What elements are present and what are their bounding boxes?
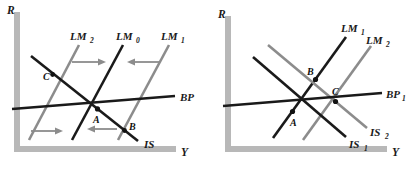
right-label-is2-base: IS <box>369 126 380 138</box>
left-arrow-shift-left-lower <box>87 126 117 133</box>
left-point-b-dot <box>122 128 127 133</box>
right-label-lm2-sub: 2 <box>385 40 390 49</box>
left-arrow-shift-left-upper <box>127 59 160 66</box>
left-arrow-shift-right-upper <box>72 59 106 66</box>
left-point-label-b: B <box>128 121 136 132</box>
left-label-bp: BP <box>179 91 194 103</box>
left-label-lm0-base: LM <box>115 30 134 42</box>
left-curve-lm1 <box>118 45 169 140</box>
left-label-lm2-base: LM <box>69 30 88 42</box>
right-label-is2: IS 2 <box>369 126 389 141</box>
right-label-lm1-base: LM <box>340 22 359 34</box>
left-y-axis-label: R <box>6 4 15 16</box>
right-label-bp1: BP 1 <box>385 88 406 103</box>
left-label-is-base: IS <box>143 138 154 150</box>
right-x-axis-label: Y <box>392 146 400 158</box>
left-curve-is <box>31 56 138 141</box>
figure-root: R Y LM 2 LM 0 LM 1 BP IS C A <box>0 0 410 186</box>
right-point-a-dot <box>290 109 295 114</box>
left-label-bp-base: BP <box>179 91 194 103</box>
right-x-axis <box>225 146 387 152</box>
right-label-is1-base: IS <box>348 138 359 150</box>
left-label-lm2-sub: 2 <box>89 36 94 45</box>
left-point-label-c: C <box>43 71 50 82</box>
left-label-lm1-sub: 1 <box>181 36 185 45</box>
right-label-bp1-base: BP <box>385 88 400 100</box>
right-point-b-dot <box>313 77 318 82</box>
right-y-axis <box>225 16 231 152</box>
right-label-is1-sub: 1 <box>364 144 368 153</box>
left-label-lm1: LM 1 <box>160 30 185 45</box>
right-point-label-b: B <box>306 66 314 77</box>
left-point-label-a: A <box>92 114 100 125</box>
left-label-lm0-sub: 0 <box>136 36 140 45</box>
right-point-label-a: A <box>289 117 297 128</box>
left-point-a-dot <box>95 106 100 111</box>
left-point-c-dot <box>50 72 55 77</box>
left-label-lm2: LM 2 <box>69 30 94 45</box>
right-label-lm2: LM 2 <box>365 34 390 49</box>
panel-right: R Y LM 1 LM 2 BP 1 IS 2 IS 1 <box>205 0 410 186</box>
right-y-axis-label: R <box>217 8 226 20</box>
panel-left: R Y LM 2 LM 0 LM 1 BP IS C A <box>0 0 205 186</box>
right-curve-bp1 <box>223 93 382 106</box>
right-label-bp1-sub: 1 <box>402 94 406 103</box>
left-label-lm1-base: LM <box>160 30 179 42</box>
left-label-lm0: LM 0 <box>115 30 140 45</box>
right-point-label-c: C <box>332 86 339 97</box>
right-point-c-dot <box>333 99 338 104</box>
right-label-lm2-base: LM <box>365 34 384 46</box>
right-label-lm1: LM 1 <box>340 22 365 37</box>
right-label-is2-sub: 2 <box>384 132 389 141</box>
left-x-axis-label: Y <box>181 146 189 158</box>
right-label-lm1-sub: 1 <box>361 28 365 37</box>
right-curve-is2 <box>268 45 367 128</box>
left-y-axis <box>14 12 20 152</box>
left-curve-lm0 <box>72 45 123 140</box>
left-label-is: IS <box>143 138 154 150</box>
